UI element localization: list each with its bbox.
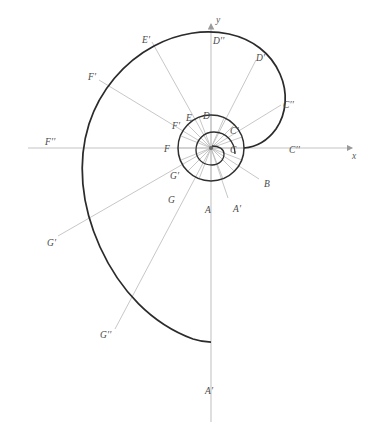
ray-to-C-double-prime bbox=[211, 105, 281, 148]
label-A: A bbox=[205, 206, 211, 216]
label-G-prime-outer: G′ bbox=[47, 239, 56, 249]
label-F-double-prime: F′′ bbox=[45, 138, 56, 148]
label-E-prime: E′ bbox=[142, 36, 150, 46]
outer-spiral bbox=[82, 32, 285, 342]
label-D-double-prime: D′′ bbox=[213, 37, 225, 47]
label-F-prime-inner: F′ bbox=[172, 122, 180, 132]
label-G-prime-inner: G′ bbox=[170, 172, 179, 182]
label-C-double-prime-arc: C′′ bbox=[283, 101, 294, 111]
y-axis-label: y bbox=[216, 16, 220, 26]
label-C: C bbox=[230, 146, 237, 156]
label-A-prime-bottom: A′ bbox=[205, 387, 213, 397]
label-G-double-prime: G′′ bbox=[100, 331, 112, 341]
radial-rays-group bbox=[58, 42, 281, 329]
label-D-prime: D′ bbox=[256, 54, 265, 64]
spiral-figure: x y A B C D E F G A′ C′ D′ E′ F′ F′ G′ G… bbox=[0, 0, 380, 436]
ray-to-F-prime bbox=[99, 80, 211, 148]
label-G: G bbox=[168, 196, 175, 206]
label-D: D bbox=[203, 112, 210, 122]
label-B: B bbox=[264, 180, 270, 190]
label-C-double-prime-axis: C′′ bbox=[289, 146, 300, 156]
axes-group bbox=[28, 24, 352, 422]
x-axis-label: x bbox=[352, 152, 356, 162]
label-F-prime-outer: F′ bbox=[88, 73, 96, 83]
label-F: F bbox=[164, 145, 170, 155]
spiral-figure-canvas bbox=[0, 0, 380, 436]
label-C-prime: C′ bbox=[230, 127, 239, 137]
label-E: E bbox=[186, 114, 192, 124]
label-A-prime: A′ bbox=[233, 205, 241, 215]
